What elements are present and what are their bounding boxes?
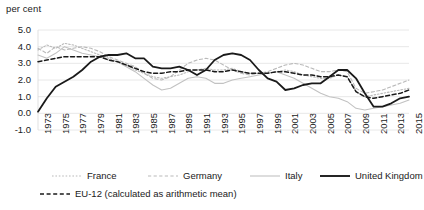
legend-swatch [148,171,178,181]
legend-item-italy[interactable]: Italy [250,168,302,184]
legend-swatch-line [148,171,178,181]
legend-label: EU-12 (calculated as arithmetic mean) [75,189,237,199]
legend-item-germany[interactable]: Germany [148,168,222,184]
legend-swatch-line [320,171,350,181]
legend-swatch [250,171,280,181]
data-series-layer [38,43,409,111]
legend-label: United Kingdom [355,171,423,181]
legend-row-secondary: EU-12 (calculated as arithmetic mean) [0,186,416,202]
legend-row-primary: FranceGermanyItalyUnited Kingdom [0,168,416,184]
legend-swatch [52,171,82,181]
legend-item-france[interactable]: France [52,168,117,184]
series-line-france [38,43,409,96]
series-line-united [38,53,409,111]
legend-label: Italy [285,171,302,181]
series-line-eu-12 [38,57,409,99]
legend-swatch-line [52,171,82,181]
legend-swatch-line [40,189,70,199]
legend-item-united-kingdom[interactable]: United Kingdom [320,168,423,184]
legend-swatch [40,189,70,199]
legend-label: Germany [183,171,222,181]
legend-swatch-line [250,171,280,181]
legend-swatch [320,171,350,181]
grid-lines [38,30,409,130]
legend-label: France [87,171,117,181]
legend-item-eu-12[interactable]: EU-12 (calculated as arithmetic mean) [40,186,237,202]
